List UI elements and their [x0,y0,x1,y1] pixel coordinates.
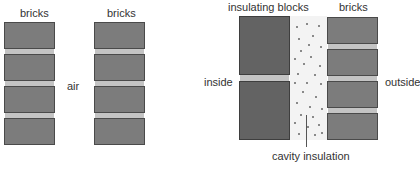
bricks-label-left: bricks [20,7,49,19]
brick [327,113,378,140]
brick [94,54,145,81]
cavity-insulation-label: cavity insulation [272,150,350,162]
brick [4,118,55,145]
cavity-leader-line [306,115,307,147]
insulating-block [239,81,290,140]
brick [94,86,145,113]
insulating-block [239,16,290,75]
outside-label: outside [385,76,420,88]
cavity-insulation-fill [290,16,327,140]
brick [4,22,55,49]
inside-label: inside [204,76,233,88]
brick [327,17,378,44]
bricks-label-right: bricks [107,7,136,19]
bricks-label: bricks [339,1,368,13]
brick [327,81,378,108]
air-gap-label: air [67,80,79,92]
brick [4,86,55,113]
brick [94,22,145,49]
insulating-blocks-label: insulating blocks [228,1,309,13]
brick [4,54,55,81]
brick [94,118,145,145]
brick [327,49,378,76]
